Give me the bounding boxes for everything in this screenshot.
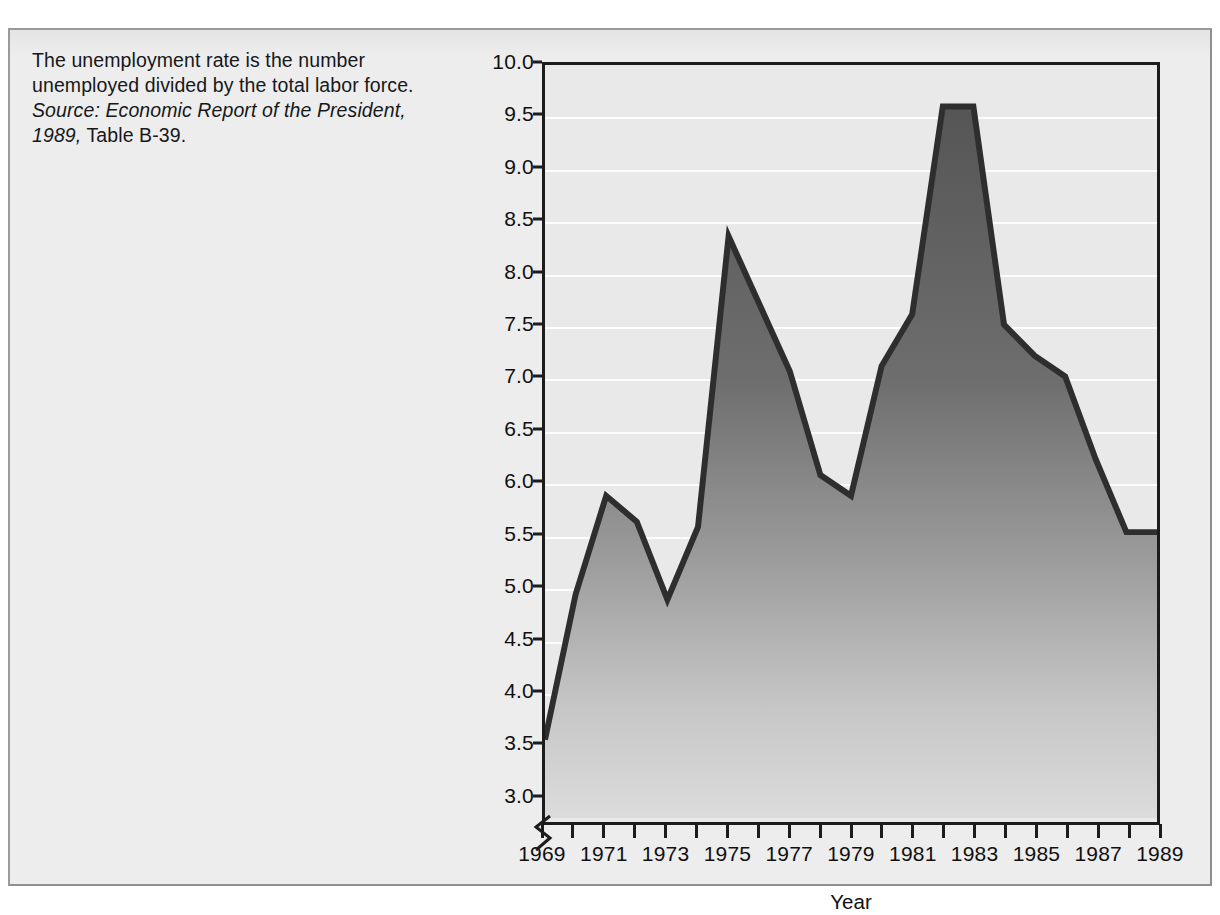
x-axis-tick [1066, 824, 1069, 838]
y-axis-tick-label: 8.5 [504, 207, 534, 231]
x-axis-tick [633, 824, 636, 838]
x-axis-ticks [542, 824, 1160, 838]
y-axis-tick-labels: 3.03.54.04.55.05.56.06.57.07.58.08.59.09… [462, 62, 534, 822]
caption-source: Source: Economic Report of the President… [32, 98, 432, 148]
y-axis-tick-label: 7.5 [504, 312, 534, 336]
x-axis-tick-label: 1983 [951, 842, 999, 866]
x-axis-tick [850, 824, 853, 838]
area-fill [545, 107, 1157, 818]
x-axis-tick [942, 824, 945, 838]
y-axis-tick-label: 10.0 [492, 50, 534, 74]
y-axis-tick [533, 427, 542, 430]
x-axis-tick-label: 1979 [827, 842, 875, 866]
y-axis-tick-label: 4.5 [504, 627, 534, 651]
area-series [545, 65, 1157, 818]
x-axis-tick-label: 1987 [1074, 842, 1122, 866]
x-axis-tick-label: 1981 [889, 842, 937, 866]
x-axis-tick [1159, 824, 1162, 838]
y-axis-tick [533, 480, 542, 483]
x-axis-tick-label: 1975 [704, 842, 752, 866]
y-axis-tick-label: 5.0 [504, 574, 534, 598]
x-axis-tick [819, 824, 822, 838]
y-axis-tick-label: 3.5 [504, 731, 534, 755]
y-axis-tick-label: 9.5 [504, 102, 534, 126]
y-axis-tick [533, 113, 542, 116]
chart-plot: Unemployment as Percentage of Labor Forc… [542, 62, 1160, 822]
x-axis-tick [602, 824, 605, 838]
x-axis-tick-label: 1973 [642, 842, 690, 866]
x-axis-tick-label: 1985 [1013, 842, 1061, 866]
x-axis-tick [726, 824, 729, 838]
x-axis-tick [1097, 824, 1100, 838]
y-axis-tick [533, 61, 542, 64]
axis-break-icon [528, 814, 562, 854]
y-axis-tick-label: 9.0 [504, 155, 534, 179]
y-axis-tick-label: 3.0 [504, 784, 534, 808]
y-axis-tick [533, 637, 542, 640]
y-axis-tick [533, 742, 542, 745]
x-axis-tick [788, 824, 791, 838]
x-axis-tick [973, 824, 976, 838]
x-axis-tick [695, 824, 698, 838]
y-axis-ticks [533, 62, 542, 822]
x-axis-tick [880, 824, 883, 838]
y-axis-tick [533, 585, 542, 588]
y-axis-tick-label: 4.0 [504, 679, 534, 703]
x-axis-tick [1004, 824, 1007, 838]
x-axis-tick [757, 824, 760, 838]
y-axis-tick [533, 270, 542, 273]
x-axis-tick [1035, 824, 1038, 838]
x-axis-tick-label: 1977 [765, 842, 813, 866]
x-axis-tick [664, 824, 667, 838]
caption-block: The unemployment rate is the number unem… [32, 48, 432, 148]
x-axis-tick [571, 824, 574, 838]
y-axis-tick [533, 689, 542, 692]
y-axis-tick [533, 532, 542, 535]
y-axis-tick-label: 8.0 [504, 260, 534, 284]
x-axis-tick [911, 824, 914, 838]
x-axis-tick-labels: 1969197119731975197719791981198319851987… [542, 842, 1160, 870]
y-axis-tick-label: 6.0 [504, 469, 534, 493]
y-axis-tick [533, 218, 542, 221]
y-axis-tick-label: 6.5 [504, 417, 534, 441]
x-axis-title: Year [830, 890, 871, 914]
plot-frame [542, 62, 1160, 822]
x-axis-tick-label: 1989 [1136, 842, 1184, 866]
y-axis-tick [533, 323, 542, 326]
caption-body: The unemployment rate is the number unem… [32, 48, 432, 98]
x-axis-tick-label: 1971 [580, 842, 628, 866]
x-axis-tick [1128, 824, 1131, 838]
y-axis-tick [533, 165, 542, 168]
y-axis-tick-label: 5.5 [504, 522, 534, 546]
y-axis-tick-label: 7.0 [504, 364, 534, 388]
y-axis-tick [533, 375, 542, 378]
figure-panel: The unemployment rate is the number unem… [8, 28, 1212, 886]
caption-source-roman: Table B-39. [81, 124, 186, 146]
y-axis-tick [533, 794, 542, 797]
